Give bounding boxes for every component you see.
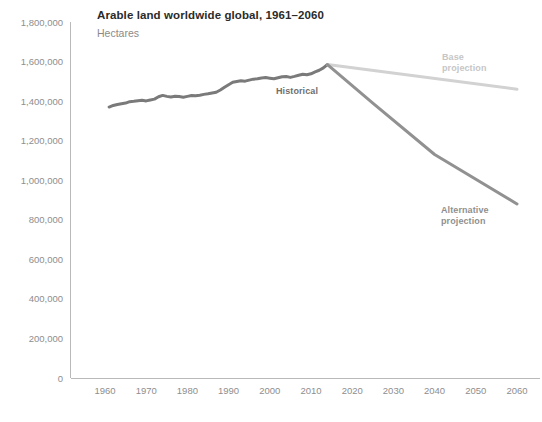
y-tick-label: 1,400,000 xyxy=(21,96,63,107)
x-tick-label: 2030 xyxy=(383,385,404,396)
x-tick-label: 1970 xyxy=(136,385,157,396)
chart-container: Arable land worldwide global, 1961–2060 … xyxy=(0,0,542,422)
series-line-base-projection xyxy=(327,65,517,90)
y-tick-label: 600,000 xyxy=(29,254,63,265)
y-tick-label: 0 xyxy=(58,373,63,384)
y-tick-label: 400,000 xyxy=(29,293,63,304)
chart-plot-area: 0200,000400,000600,000800,0001,000,0001,… xyxy=(0,0,542,422)
x-tick-label: 2060 xyxy=(506,385,527,396)
alternative-projection-series-label: Alternative projection xyxy=(441,205,491,226)
x-tick-label: 1980 xyxy=(177,385,198,396)
y-tick-label: 1,000,000 xyxy=(21,175,63,186)
x-tick-label: 2040 xyxy=(424,385,445,396)
y-tick-label: 1,800,000 xyxy=(21,17,63,28)
historical-series-label: Historical xyxy=(276,86,318,96)
y-axis-tick-labels: 0200,000400,000600,000800,0001,000,0001,… xyxy=(21,17,63,384)
x-tick-label: 1960 xyxy=(94,385,115,396)
y-tick-label: 200,000 xyxy=(29,333,63,344)
y-tick-label: 1,200,000 xyxy=(21,135,63,146)
y-tick-label: 1,600,000 xyxy=(21,56,63,67)
x-axis-tick-labels: 1960197019801990200020102020203020402050… xyxy=(94,385,527,396)
x-tick-label: 2000 xyxy=(259,385,280,396)
x-tick-label: 1990 xyxy=(218,385,239,396)
y-tick-label: 800,000 xyxy=(29,214,63,225)
x-tick-label: 2050 xyxy=(465,385,486,396)
base-projection-series-label: Base projection xyxy=(442,52,487,73)
x-tick-label: 2020 xyxy=(342,385,363,396)
x-tick-label: 2010 xyxy=(300,385,321,396)
